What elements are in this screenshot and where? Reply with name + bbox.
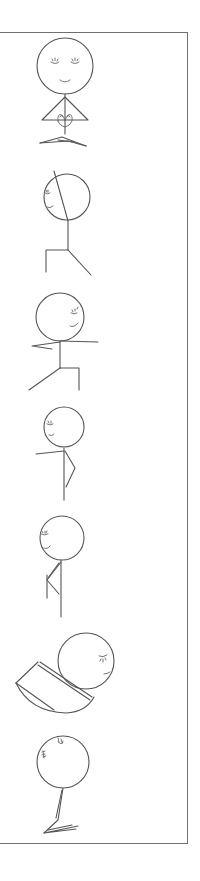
smile-icon (47, 206, 53, 208)
eye-closed-icon (99, 655, 107, 662)
raised-arm (54, 171, 68, 221)
smile-icon (60, 80, 70, 82)
pose-figure-3: Warrior II (29, 293, 98, 390)
head-icon (37, 736, 89, 788)
extended-arm (36, 451, 64, 454)
head-icon (44, 174, 90, 220)
bent-arm (65, 451, 75, 487)
left-arm (32, 342, 60, 349)
curved-body (16, 683, 94, 713)
yoga-figures-canvas: Seated meditation (prayer hands, crossed… (0, 0, 200, 881)
folded-leg (47, 562, 61, 594)
back-lines (38, 662, 92, 700)
head-icon (37, 38, 93, 94)
eye-closed-icon (51, 58, 59, 64)
back-leg (44, 788, 63, 833)
head-icon (40, 516, 84, 560)
eye-closed-icon (45, 190, 50, 194)
hair-icon (42, 751, 46, 758)
straight-leg (68, 250, 91, 275)
smile-icon (70, 323, 78, 327)
pose-figure-6: Forward fold / rounded back pose (16, 633, 114, 713)
pose-figure-7: Seated with legs extended, head tilted (37, 736, 89, 833)
eye-closed-icon (47, 421, 53, 425)
head-icon (58, 633, 114, 689)
head-icon (44, 407, 84, 447)
pose-figure-4: Standing with bent knee, arm extended fo… (36, 407, 84, 500)
eye-closed-icon (58, 738, 63, 744)
smile-icon (49, 434, 54, 436)
bent-leg (46, 250, 68, 272)
back-leg (29, 368, 60, 390)
eye-closed-icon (41, 531, 48, 535)
head-icon (36, 293, 84, 341)
pose-figure-5: Standing with leg folded behind (40, 516, 84, 617)
pose-figure-2: Standing pose, arm raised alongside head… (44, 171, 91, 275)
bent-front-leg (60, 368, 79, 390)
eye-closed-icon (71, 58, 79, 64)
pose-figure-1: Seated meditation (prayer hands, crossed… (37, 38, 93, 146)
smile-icon (104, 672, 110, 674)
smile-icon (44, 546, 50, 549)
eye-closed-icon (71, 307, 78, 314)
arm-line (16, 662, 38, 683)
right-arm (60, 341, 98, 342)
